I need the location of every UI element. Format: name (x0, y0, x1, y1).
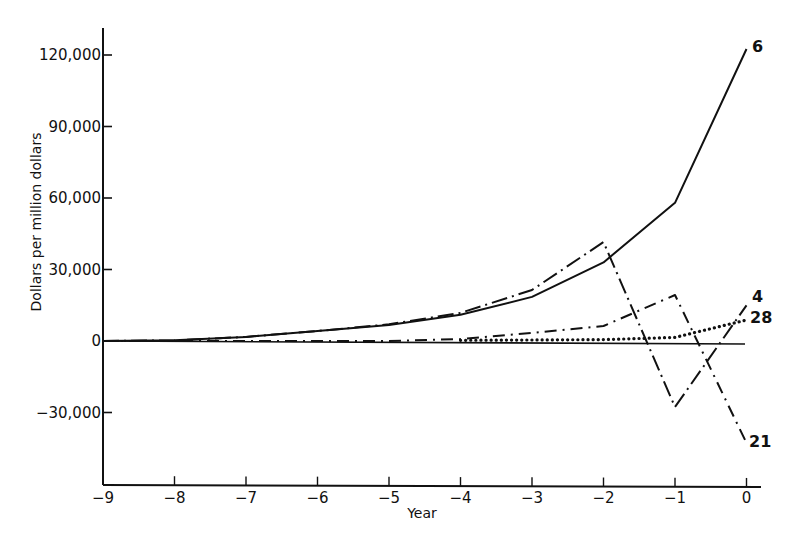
y-tick-label: 30,000 (49, 261, 102, 279)
x-tick-label: −3 (521, 489, 543, 507)
y-tick-label: 60,000 (49, 189, 102, 207)
x-axis-title: Year (406, 505, 437, 521)
series-28-line (461, 320, 747, 340)
series-labels: 642128 (749, 37, 772, 451)
axes (103, 28, 761, 487)
x-tick-label: −9 (92, 489, 114, 507)
y-axis-title: Dollars per million dollars (28, 133, 44, 312)
x-tick-label: −1 (664, 489, 686, 507)
y-tick-label: 0 (91, 332, 101, 350)
series-4-label: 4 (752, 287, 763, 306)
x-tick-label: 0 (742, 489, 752, 507)
x-axis (103, 485, 761, 487)
series-4-line (103, 242, 747, 407)
x-tick-label: −4 (449, 489, 471, 507)
x-tick-label: −2 (592, 489, 614, 507)
y-tick-label: 120,000 (39, 46, 101, 64)
x-ticks: −9−8−7−6−5−4−3−2−10 (92, 476, 751, 507)
series-6-label: 6 (752, 37, 763, 56)
y-tick-label: −30,000 (36, 404, 101, 422)
x-tick-label: −6 (306, 489, 328, 507)
series-6-line (103, 49, 747, 341)
series-lines (103, 49, 747, 443)
y-tick-label: 90,000 (49, 118, 102, 136)
line-chart: 120,00090,00060,00030,0000−30,000 −9−8−7… (0, 0, 793, 543)
series-28-label: 28 (750, 308, 772, 327)
x-tick-label: −8 (163, 489, 185, 507)
x-tick-label: −7 (235, 489, 257, 507)
y-ticks: 120,00090,00060,00030,0000−30,000 (36, 46, 112, 422)
series-21-label: 21 (749, 432, 771, 451)
series-21-line (103, 295, 747, 443)
x-tick-label: −5 (378, 489, 400, 507)
